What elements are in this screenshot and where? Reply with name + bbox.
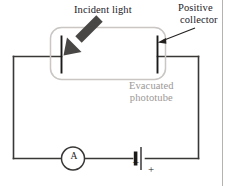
positive-collector-label: Positive collector (178, 2, 218, 26)
incident-light-label: Incident light (74, 4, 132, 16)
positive-collector-label-line2: collector (178, 14, 218, 26)
arrow-shaft (79, 19, 100, 40)
incident-light-arrow (64, 14, 101, 57)
circuit-diagram-svg (0, 0, 230, 186)
collector-leader-line (158, 28, 195, 44)
collector-leader-arrowhead (158, 38, 167, 44)
ammeter-symbol-label: A (69, 151, 79, 161)
battery-negative-sign: – (133, 155, 139, 167)
evacuated-phototube-label: Evacuated phototube (129, 80, 174, 104)
circuit-wire (14, 57, 199, 159)
evacuated-phototube-label-line2: phototube (129, 92, 174, 104)
positive-collector-label-line1: Positive (178, 2, 213, 13)
photoelectric-circuit-figure: Incident light Positive collector Evacua… (0, 0, 230, 186)
battery-positive-sign: + (148, 163, 154, 175)
evacuated-phototube-label-line1: Evacuated (129, 80, 174, 91)
